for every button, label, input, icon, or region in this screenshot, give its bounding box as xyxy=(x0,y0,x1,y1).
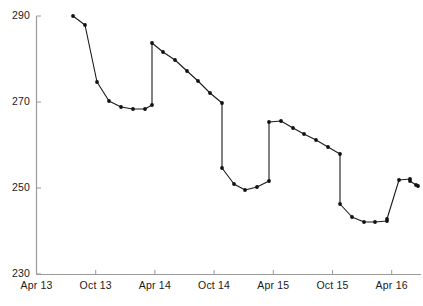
data-point xyxy=(314,138,318,142)
data-point xyxy=(161,50,165,54)
y-axis-tick-label: 250 xyxy=(0,181,30,193)
data-point xyxy=(338,152,342,156)
data-point xyxy=(173,58,177,62)
data-point xyxy=(131,107,135,111)
x-axis-tick-label: Apr 14 xyxy=(125,279,185,291)
data-point xyxy=(397,178,401,182)
data-point xyxy=(243,188,247,192)
data-point xyxy=(267,179,271,183)
x-axis-tick-label: Apr 15 xyxy=(243,279,303,291)
data-point xyxy=(232,182,236,186)
data-point xyxy=(338,202,342,206)
data-point xyxy=(291,126,295,130)
data-point xyxy=(119,105,123,109)
data-point xyxy=(196,79,200,83)
x-axis-tick-label: Apr 16 xyxy=(362,279,422,291)
y-axis-ticks xyxy=(37,16,42,274)
y-axis-tick-label: 270 xyxy=(0,95,30,107)
x-axis-ticks xyxy=(96,270,392,275)
y-axis-tick-label: 230 xyxy=(0,267,30,279)
data-point xyxy=(143,107,147,111)
data-point xyxy=(302,132,306,136)
data-point xyxy=(255,185,259,189)
data-point xyxy=(150,103,154,107)
x-axis-tick-label: Oct 13 xyxy=(66,279,126,291)
data-point xyxy=(279,119,283,123)
data-point xyxy=(267,120,271,124)
x-axis-tick-label: Oct 15 xyxy=(303,279,363,291)
data-point xyxy=(208,91,212,95)
data-point xyxy=(185,69,189,73)
data-point xyxy=(385,217,389,221)
data-point xyxy=(373,220,377,224)
x-axis-tick-label: Oct 14 xyxy=(184,279,244,291)
axes xyxy=(36,16,421,275)
y-axis-tick-label: 290 xyxy=(0,9,30,21)
chart-plot-area xyxy=(0,0,423,306)
data-point xyxy=(71,14,75,18)
x-axis-tick-label: Apr 13 xyxy=(7,279,67,291)
data-point xyxy=(362,220,366,224)
data-point xyxy=(220,166,224,170)
data-point xyxy=(326,145,330,149)
data-point xyxy=(150,41,154,45)
data-point xyxy=(220,101,224,105)
data-point xyxy=(107,99,111,103)
data-point-markers xyxy=(71,14,420,224)
line-chart: 290270250230 Apr 13Oct 13Apr 14Oct 14Apr… xyxy=(0,0,423,306)
data-point xyxy=(95,80,99,84)
data-point xyxy=(408,179,412,183)
data-point xyxy=(83,23,87,27)
data-point xyxy=(416,184,420,188)
data-point xyxy=(350,215,354,219)
